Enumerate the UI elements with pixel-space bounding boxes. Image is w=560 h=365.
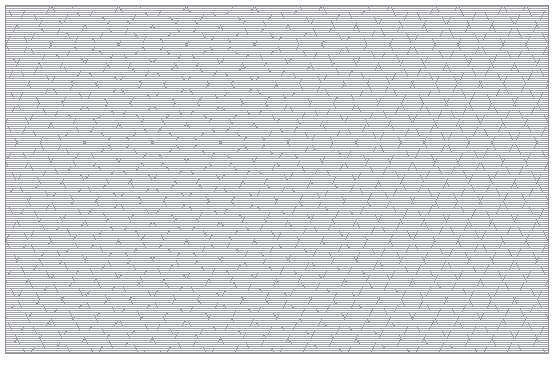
grid-layer-diagonal-right-lines [5,5,549,354]
isometric-dot-grid-sheet [5,5,549,354]
page-canvas [0,0,560,365]
grid-layer-diagonal-left-lines [5,5,549,354]
grid-layer-vertical-lines [5,5,549,354]
